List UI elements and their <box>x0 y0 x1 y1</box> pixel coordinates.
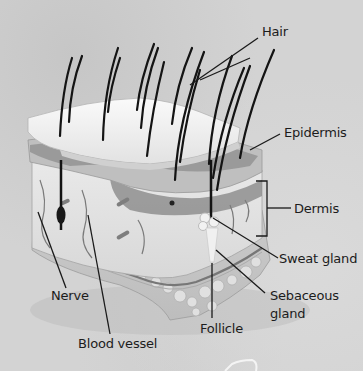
label-sweat-gland: Sweat gland <box>279 251 357 266</box>
decorative-corner <box>225 360 257 371</box>
label-hair: Hair <box>262 24 288 39</box>
label-sebaceous-gland-line1: Sebaceous <box>270 288 339 303</box>
label-dermis: Dermis <box>294 201 339 216</box>
label-epidermis: Epidermis <box>284 125 347 140</box>
label-nerve: Nerve <box>51 288 89 303</box>
skin-diagram: Hair Epidermis Dermis Sweat gland Sebace… <box>0 0 363 371</box>
epidermis-leader <box>250 134 280 150</box>
label-follicle: Follicle <box>200 321 243 336</box>
label-blood-vessel: Blood vessel <box>78 336 157 351</box>
label-sebaceous-gland-line2: gland <box>270 306 305 321</box>
skin-cross-section-illustration <box>0 0 363 371</box>
